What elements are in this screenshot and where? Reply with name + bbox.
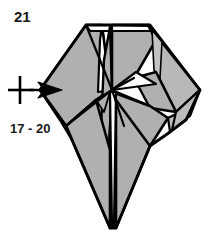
- tail-center-white-stripe: [110, 92, 116, 226]
- origami-figure-svg: 21 17 - 20: [0, 0, 219, 233]
- step-number-label: 21: [14, 8, 31, 25]
- repeat-range-label: 17 - 20: [10, 121, 50, 136]
- origami-diagram-figure: 21 17 - 20: [0, 0, 219, 233]
